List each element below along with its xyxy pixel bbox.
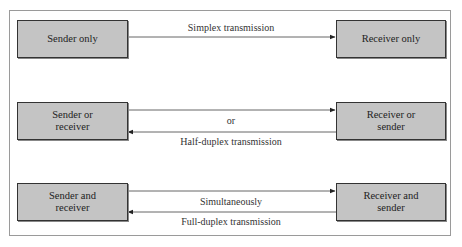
or-label: or	[227, 115, 235, 126]
sender-only-label: Sender only	[47, 33, 97, 45]
receiver-and-sender-label: Receiver and sender	[363, 190, 418, 214]
receiver-and-sender-box: Receiver and sender	[336, 183, 446, 221]
receiver-only-label: Receiver only	[362, 33, 421, 45]
half-duplex-transmission-label: Half-duplex transmission	[180, 136, 281, 147]
receiver-only-box: Receiver only	[336, 20, 446, 58]
simultaneously-label: Simultaneously	[200, 196, 262, 207]
sender-and-receiver-box: Sender and receiver	[17, 183, 128, 221]
full-duplex-transmission-label: Full-duplex transmission	[181, 216, 281, 227]
receiver-or-sender-box: Receiver or sender	[336, 102, 446, 140]
sender-only-box: Sender only	[17, 20, 128, 58]
simplex-transmission-label: Simplex transmission	[188, 22, 274, 33]
sender-or-receiver-box: Sender or receiver	[17, 102, 128, 140]
sender-and-receiver-label: Sender and receiver	[49, 190, 96, 214]
sender-or-receiver-label: Sender or receiver	[52, 109, 93, 133]
receiver-or-sender-label: Receiver or sender	[367, 109, 416, 133]
